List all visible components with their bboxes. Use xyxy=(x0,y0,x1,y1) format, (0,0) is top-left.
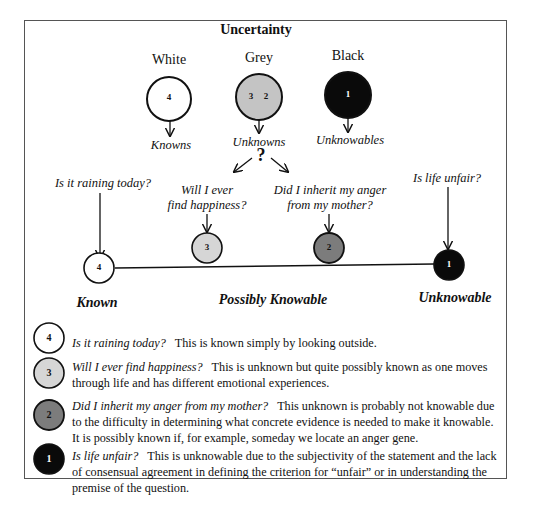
legend-question-4: Is it raining today? xyxy=(72,336,166,350)
legend-question-2: Did I inherit my anger from my mother? xyxy=(72,399,268,413)
legend-number-4: 4 xyxy=(47,332,52,343)
scale-number-4: 4 xyxy=(97,262,102,272)
scale-label-unknowable: Unknowable xyxy=(418,290,491,306)
scale-number-2: 2 xyxy=(327,242,332,252)
knowability-scale-line xyxy=(115,264,434,268)
question-unfair: Is life unfair? xyxy=(413,171,481,186)
question-happiness-line1: Will I ever xyxy=(181,183,233,198)
legend-item-1: Is life unfair? This is unknowable due t… xyxy=(72,448,502,496)
legend-number-1: 1 xyxy=(47,453,52,464)
question-to-happiness-arrow xyxy=(234,158,252,172)
legend-explanation-4: This is known simply by looking outside. xyxy=(175,336,377,350)
category-label-black: Black xyxy=(332,48,365,64)
grey-circle-number-a: 3 xyxy=(249,91,254,101)
white-circle-number: 4 xyxy=(167,92,172,102)
scale-label-possibly-knowable: Possibly Knowable xyxy=(219,292,328,308)
legend-number-2: 2 xyxy=(47,409,52,420)
question-anger-line1: Did I inherit my anger xyxy=(274,183,386,198)
legend-item-3: Will I ever find happiness? This is unkn… xyxy=(72,359,502,391)
legend-item-2: Did I inherit my anger from my mother? T… xyxy=(72,398,502,446)
legend-question-3: Will I ever find happiness? xyxy=(72,360,203,374)
diagram-title: Uncertainty xyxy=(220,22,292,38)
question-anger-line2: from my mother? xyxy=(287,198,373,213)
question-happiness-line2: find happiness? xyxy=(168,198,247,213)
scale-number-1: 1 xyxy=(447,259,452,269)
legend-question-1: Is life unfair? xyxy=(72,449,138,463)
black-circle-number: 1 xyxy=(346,89,351,99)
category-label-grey: Grey xyxy=(245,50,273,66)
grey-circle-number-b: 2 xyxy=(264,91,269,101)
grey-circle xyxy=(236,74,282,120)
question-to-anger-arrow xyxy=(271,158,288,172)
question-mark: ? xyxy=(257,145,266,166)
outcome-unknowables: Unknowables xyxy=(316,133,384,148)
category-label-white: White xyxy=(152,52,186,68)
scale-number-3: 3 xyxy=(205,242,210,252)
legend-number-3: 3 xyxy=(47,367,52,378)
legend-item-4: Is it raining today? This is known simpl… xyxy=(72,335,502,351)
outcome-knowns: Knowns xyxy=(151,138,191,153)
scale-label-known: Known xyxy=(76,295,117,311)
question-raining: Is it raining today? xyxy=(55,176,151,191)
